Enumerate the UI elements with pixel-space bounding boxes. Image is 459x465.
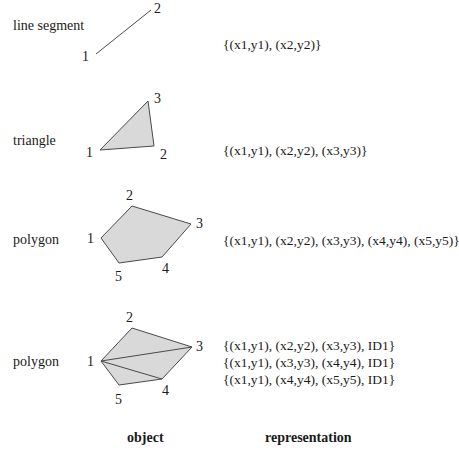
vertex-label: 4 xyxy=(162,384,169,398)
vertex-label: 2 xyxy=(160,148,167,162)
triangulated-polygon-shape xyxy=(101,328,192,385)
column-header-object: object xyxy=(127,430,164,446)
vertex-label: 3 xyxy=(196,340,203,354)
triangle-shape xyxy=(100,101,154,150)
vertex-label: 3 xyxy=(196,217,203,231)
vertex-label: 4 xyxy=(162,262,169,276)
vertex-label: 2 xyxy=(126,311,133,325)
row-label-line-segment: line segment xyxy=(13,18,84,34)
vertex-label: 5 xyxy=(115,270,122,284)
polygon-shape xyxy=(101,206,191,263)
column-header-representation: representation xyxy=(265,430,352,446)
representation-polygon: {(x1,y1), (x2,y2), (x3,y3), (x4,y4), (x5… xyxy=(223,232,459,249)
representation-line-segment: {(x1,y1), (x2,y2)} xyxy=(223,36,321,53)
representation-triangle: {(x1,y1), (x2,y2), (x3,y3)} xyxy=(223,142,368,159)
vertex-label: 5 xyxy=(115,393,122,407)
vertex-label: 2 xyxy=(126,189,133,203)
vertex-label: 1 xyxy=(82,50,89,64)
vertex-label: 1 xyxy=(86,146,93,160)
vertex-label: 3 xyxy=(154,92,161,106)
representation-triangle-1: {(x1,y1), (x2,y2), (x3,y3), ID1} xyxy=(223,337,395,354)
vertex-label: 1 xyxy=(87,355,94,369)
line-segment-shape xyxy=(96,10,151,54)
representation-triangle-2: {(x1,y1), (x3,y3), (x4,y4), ID1} xyxy=(223,354,395,371)
representation-triangle-3: {(x1,y1), (x4,y4), (x5,y5), ID1} xyxy=(223,371,395,388)
row-label-polygon: polygon xyxy=(13,232,59,248)
vertex-label: 2 xyxy=(154,2,161,16)
row-label-polygon-triangulated: polygon xyxy=(13,354,59,370)
row-label-triangle: triangle xyxy=(13,133,56,149)
vertex-label: 1 xyxy=(87,232,94,246)
